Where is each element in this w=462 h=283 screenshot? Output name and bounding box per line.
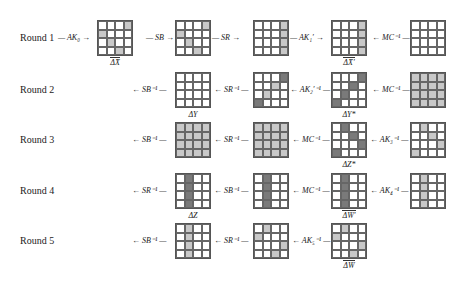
state-cell	[176, 21, 185, 30]
state-cell	[202, 73, 211, 82]
state-cell	[428, 82, 437, 91]
operation-arrow: ← MC⁻¹ —	[372, 33, 410, 43]
grid-caption: ΔY	[175, 110, 211, 119]
state-cell	[193, 183, 202, 192]
round-label: Round 5	[20, 235, 54, 246]
state-cell	[202, 123, 211, 132]
state-cell	[332, 191, 341, 200]
state-cell	[263, 224, 272, 233]
state-cell	[193, 132, 202, 141]
state-cell	[341, 82, 350, 91]
state-cell	[349, 123, 358, 132]
grid-caption: ΔX̄′	[331, 58, 367, 67]
state-cell	[437, 183, 446, 192]
state-cell	[185, 47, 194, 56]
state-cell	[185, 73, 194, 82]
state-cell	[341, 183, 350, 192]
state-cell	[98, 38, 107, 47]
state-cell	[437, 73, 446, 82]
grid-caption-text: ΔX̄′	[343, 57, 354, 67]
state-cell	[420, 82, 429, 91]
state-cell	[411, 73, 420, 82]
state-cell	[176, 47, 185, 56]
state-cell	[280, 73, 289, 82]
operation-arrow: ← AK₄⁻¹ —	[370, 186, 408, 196]
state-cell	[332, 90, 341, 99]
state-cell	[254, 47, 263, 56]
state-cell	[411, 149, 420, 158]
state-cell	[358, 47, 367, 56]
state-cell	[437, 99, 446, 108]
state-cell	[263, 47, 272, 56]
state-cell	[176, 250, 185, 259]
operation-arrow: ← MC⁻¹ —	[292, 135, 330, 145]
state-cell	[176, 200, 185, 209]
state-cell	[263, 21, 272, 30]
state-cell	[280, 250, 289, 259]
grid-caption-text: ΔZ*	[342, 160, 355, 169]
state-cell	[332, 183, 341, 192]
state-cell	[437, 140, 446, 149]
state-cell	[332, 241, 341, 250]
state-cell	[98, 21, 107, 30]
state-cell	[341, 123, 350, 132]
state-cell	[254, 123, 263, 132]
state-cell	[349, 224, 358, 233]
grid-caption: ΔY*	[331, 110, 367, 119]
state-cell	[358, 21, 367, 30]
state-cell	[358, 82, 367, 91]
state-cell	[428, 191, 437, 200]
state-cell	[280, 30, 289, 39]
operation-arrow: ← SB⁻¹ —	[132, 236, 166, 246]
state-cell	[254, 149, 263, 158]
state-cell	[332, 21, 341, 30]
state-cell	[263, 149, 272, 158]
state-cell	[254, 250, 263, 259]
state-cell	[280, 99, 289, 108]
state-grid	[175, 72, 211, 108]
state-cell	[202, 38, 211, 47]
state-cell	[332, 47, 341, 56]
state-cell	[202, 241, 211, 250]
state-cell	[341, 30, 350, 39]
state-cell	[411, 47, 420, 56]
operation-arrow: ← SR⁻¹ —	[214, 85, 248, 95]
state-grid	[175, 122, 211, 158]
state-cell	[124, 21, 133, 30]
grid-caption-text: ΔY	[188, 110, 197, 119]
state-cell	[428, 38, 437, 47]
state-cell	[280, 38, 289, 47]
state-cell	[349, 132, 358, 141]
state-cell	[254, 224, 263, 233]
state-grid	[253, 223, 289, 259]
state-cell	[341, 47, 350, 56]
state-cell	[193, 241, 202, 250]
state-cell	[411, 174, 420, 183]
state-cell	[271, 174, 280, 183]
state-cell	[411, 183, 420, 192]
state-cell	[420, 140, 429, 149]
state-grid	[410, 72, 446, 108]
state-cell	[202, 90, 211, 99]
state-cell	[185, 140, 194, 149]
state-cell	[358, 140, 367, 149]
state-cell	[263, 174, 272, 183]
state-cell	[176, 38, 185, 47]
state-cell	[411, 132, 420, 141]
state-cell	[271, 82, 280, 91]
state-cell	[428, 30, 437, 39]
state-cell	[176, 224, 185, 233]
state-cell	[420, 191, 429, 200]
operation-arrow: ← AK₂′⁻¹ —	[290, 85, 330, 95]
state-cell	[263, 90, 272, 99]
state-cell	[280, 233, 289, 242]
state-cell	[358, 200, 367, 209]
operation-arrow: ← SB⁻¹ —	[132, 85, 166, 95]
state-cell	[263, 200, 272, 209]
state-cell	[280, 132, 289, 141]
state-cell	[280, 47, 289, 56]
state-cell	[349, 99, 358, 108]
state-cell	[185, 241, 194, 250]
state-cell	[332, 200, 341, 209]
state-cell	[341, 233, 350, 242]
